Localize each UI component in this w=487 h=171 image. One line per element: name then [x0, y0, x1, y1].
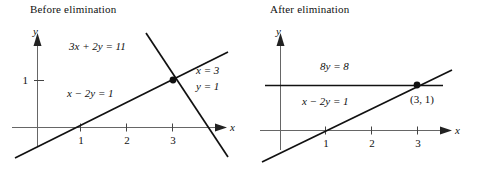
- elimination-figure: Before elimination: [0, 0, 487, 171]
- solution-y-value: y = 1: [196, 79, 219, 93]
- y-axis-before: [34, 33, 42, 146]
- x-axis-label-before: x: [230, 122, 235, 133]
- equation-label-x-minus-2y-after: x − 2y = 1: [302, 95, 349, 108]
- panel-before-elimination: Before elimination: [0, 0, 244, 171]
- solution-x-value: x = 3: [196, 63, 219, 77]
- equation-label-3x-plus-2y: 3x + 2y = 11: [69, 40, 126, 53]
- x-tick-label-3-before: 3: [166, 135, 180, 146]
- x-tick-label-3-after: 3: [411, 138, 425, 149]
- x-tick-label-1-after: 1: [319, 138, 333, 149]
- line-3x-plus-2y-before: [146, 33, 228, 157]
- panel-after-elimination: After elimination: [244, 0, 487, 171]
- x-tick-label-1-before: 1: [74, 135, 88, 146]
- x-tick-label-2-after: 2: [365, 138, 379, 149]
- equation-label-x-minus-2y-before: x − 2y = 1: [67, 87, 114, 100]
- equation-label-8y-equals-8: 8y = 8: [320, 60, 349, 73]
- x-axis-before: [12, 124, 227, 132]
- y-axis-label-before: y: [33, 26, 38, 37]
- intersection-point-after: [414, 82, 421, 89]
- intersection-point-before: [170, 77, 177, 84]
- x-tick-label-2-before: 2: [120, 135, 134, 146]
- y-axis-after: [277, 33, 285, 150]
- solution-point-label: (3, 1): [410, 93, 434, 105]
- y-axis-label-after: y: [276, 26, 281, 37]
- y-tick-label-1-before: 1: [18, 75, 28, 86]
- x-axis-after: [260, 127, 452, 135]
- x-axis-label-after: x: [455, 125, 460, 136]
